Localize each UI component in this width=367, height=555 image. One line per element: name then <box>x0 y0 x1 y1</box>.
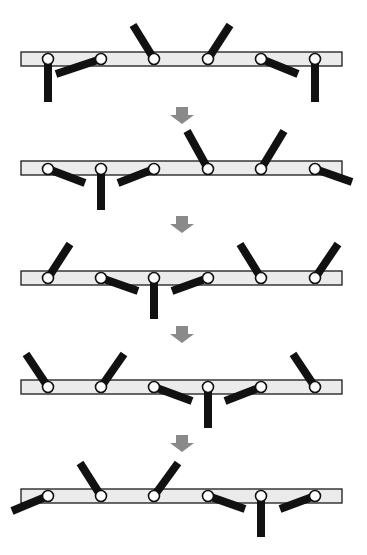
stage-4 <box>21 354 342 428</box>
stage-2 <box>21 131 352 210</box>
stage-5 <box>12 463 342 537</box>
horizontal-bar <box>21 271 342 285</box>
hinge-joint-3 <box>149 164 160 175</box>
hinge-joint-1 <box>43 54 54 65</box>
hinge-joint-1 <box>43 164 54 175</box>
hinge-joint-1 <box>43 491 54 502</box>
hinge-joint-4 <box>203 164 214 175</box>
hinge-joint-1 <box>43 382 54 393</box>
horizontal-bar <box>21 380 342 394</box>
down-arrow-icon <box>170 326 194 343</box>
hinge-joint-1 <box>43 273 54 284</box>
hinge-joint-2 <box>96 491 107 502</box>
hinge-joint-4 <box>203 54 214 65</box>
hinge-joint-3 <box>149 54 160 65</box>
hinge-joint-3 <box>149 491 160 502</box>
hinge-joint-4 <box>203 273 214 284</box>
stage-1 <box>21 25 342 102</box>
hinge-joint-5 <box>256 491 267 502</box>
hinge-joint-6 <box>310 54 321 65</box>
hinge-joint-4 <box>203 382 214 393</box>
hinge-joint-5 <box>256 382 267 393</box>
stage-3 <box>21 244 342 319</box>
horizontal-bar <box>21 52 342 66</box>
hinge-joint-4 <box>203 491 214 502</box>
hinge-joint-6 <box>310 491 321 502</box>
down-arrow-icon <box>170 216 194 233</box>
hinge-joint-5 <box>256 164 267 175</box>
hinge-joint-3 <box>149 273 160 284</box>
hinge-joint-2 <box>96 273 107 284</box>
hinge-joint-6 <box>310 164 321 175</box>
hinge-joint-3 <box>149 382 160 393</box>
hinge-joint-2 <box>96 164 107 175</box>
hinge-joint-2 <box>96 54 107 65</box>
hinge-joint-6 <box>310 273 321 284</box>
hinge-joint-5 <box>256 273 267 284</box>
down-arrow-icon <box>170 435 194 452</box>
hinge-joint-2 <box>96 382 107 393</box>
down-arrow-icon <box>170 107 194 124</box>
hinge-joint-5 <box>256 54 267 65</box>
hinged-arms-sequence-diagram <box>0 0 367 555</box>
hinge-joint-6 <box>310 382 321 393</box>
